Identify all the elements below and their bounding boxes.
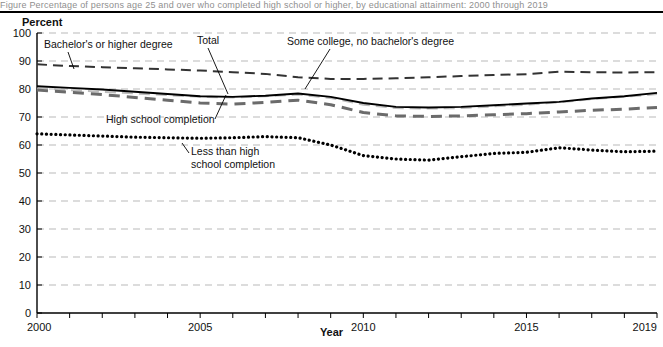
y-tick-label-30: 30: [19, 223, 31, 235]
y-tick-label-80: 80: [19, 83, 31, 95]
annotation-total-leader: [208, 48, 228, 94]
y-tick-label-50: 50: [19, 167, 31, 179]
y-tick-label-0: 0: [25, 307, 31, 319]
x-tick-label-2005: 2005: [188, 321, 212, 333]
y-tick-label-70: 70: [19, 111, 31, 123]
line-chart-plot: 0102030405060708090100200020052010201520…: [0, 0, 663, 347]
series-line-bachelor-s-or-higher-degree: [37, 64, 657, 79]
y-tick-label-10: 10: [19, 279, 31, 291]
annotation-high-school-leader: [215, 95, 226, 119]
x-tick-label-2019: 2019: [633, 321, 657, 333]
y-tick-label-60: 60: [19, 139, 31, 151]
chart-figure: Figure Percentage of persons age 25 and …: [0, 0, 663, 347]
y-tick-label-100: 100: [13, 27, 31, 39]
annotation-bachelors: Bachelor's or higher degree: [44, 38, 173, 50]
annotation-some-college: Some college, no bachelor's degree: [287, 35, 454, 47]
y-tick-label-40: 40: [19, 195, 31, 207]
series-line-less-than-high-school-completion: [37, 134, 657, 160]
x-tick-label-2000: 2000: [27, 321, 51, 333]
annotation-high-school: High school completion: [106, 113, 215, 125]
x-tick-label-2015: 2015: [514, 321, 538, 333]
x-tick-label-2010: 2010: [351, 321, 375, 333]
annotation-total: Total: [197, 34, 219, 46]
annotation-some-college-leader: [305, 49, 330, 89]
annotation-less-than-hs-line2: school completion: [191, 158, 275, 170]
annotation-less-than-hs: Less than high: [191, 145, 259, 157]
y-tick-label-90: 90: [19, 55, 31, 67]
y-tick-label-20: 20: [19, 251, 31, 263]
